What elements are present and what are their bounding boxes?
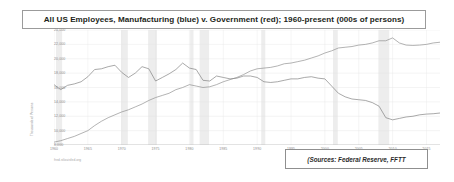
x-axis-tick-label: 1985 (219, 147, 227, 151)
plot-region (54, 30, 440, 145)
x-axis-tick-label: 1980 (185, 147, 193, 151)
chart-title-box: All US Employees, Manufacturing (blue) v… (22, 10, 426, 29)
x-axis-tick-label: 1990 (253, 147, 261, 151)
page-title: All US Employees, Manufacturing (blue) v… (44, 15, 405, 24)
fred-credit-text: fred.stlouisfed.org (54, 158, 81, 162)
x-axis-tick-label: 1970 (118, 147, 126, 151)
x-axis-tick-label: 1965 (84, 147, 92, 151)
sources-box: (Sources: Federal Reserve, FFTT (285, 149, 428, 169)
sources-text: (Sources: Federal Reserve, FFTT (307, 156, 405, 163)
x-axis-tick-label: 1960 (50, 147, 58, 151)
y-axis-label: Thousands of Persons (22, 78, 31, 136)
chart-screenshot: All US Employees, Manufacturing (blue) v… (0, 0, 454, 182)
chart-plot-svg (54, 30, 440, 145)
x-axis-tick-label: 1975 (151, 147, 159, 151)
